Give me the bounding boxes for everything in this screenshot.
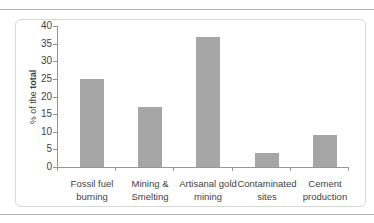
y-tick-mark-35 [53,44,57,45]
x-tick-mark-3 [232,167,233,171]
y-tick-label-25: 25 [20,73,52,85]
bottom-border-line [0,214,374,215]
plot-area [57,26,348,168]
x-tick-mark-0 [57,167,58,171]
y-tick-label-30: 30 [20,55,52,67]
bar-3 [255,153,279,167]
bar-0 [80,79,104,167]
y-tick-label-15: 15 [20,108,52,120]
x-category-label-line: Cement [290,177,360,190]
y-tick-mark-5 [53,149,57,150]
y-tick-label-20: 20 [20,91,52,103]
y-tick-label-10: 10 [20,126,52,138]
y-tick-mark-25 [53,79,57,80]
y-tick-label-40: 40 [20,20,52,32]
bar-1 [138,107,162,167]
x-tick-mark-2 [173,167,174,171]
x-tick-mark-1 [115,167,116,171]
x-tick-mark-4 [290,167,291,171]
top-border-line [0,9,374,10]
bar-2 [196,37,220,167]
y-tick-mark-40 [53,26,57,27]
y-tick-label-35: 35 [20,38,52,50]
y-tick-mark-20 [53,97,57,98]
bar-4 [313,135,337,167]
x-category-label-line: production [290,190,360,203]
y-tick-mark-10 [53,132,57,133]
y-tick-mark-30 [53,61,57,62]
x-category-label-4: Cementproduction [290,177,360,203]
y-tick-mark-15 [53,114,57,115]
y-tick-label-5: 5 [20,143,52,155]
y-tick-label-0: 0 [20,161,52,173]
figure-canvas: % of the total 0510152025303540Fossil fu… [0,0,374,223]
x-tick-mark-5 [348,167,349,171]
